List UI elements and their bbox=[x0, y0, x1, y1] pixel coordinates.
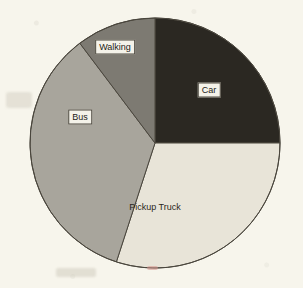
pie-slice-car[interactable] bbox=[155, 18, 280, 143]
slice-label-pickup-truck: Pickup Truck bbox=[129, 202, 181, 213]
pie-chart: CarPickup TruckBusWalking bbox=[0, 0, 303, 288]
pie-graphic bbox=[0, 0, 303, 288]
slice-label-walking: Walking bbox=[95, 40, 135, 55]
slice-label-car: Car bbox=[198, 83, 221, 98]
slice-label-bus: Bus bbox=[68, 110, 92, 125]
